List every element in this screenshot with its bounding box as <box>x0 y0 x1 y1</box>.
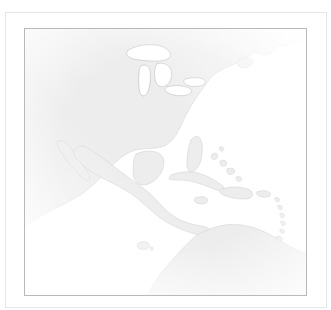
jamaica-island <box>194 197 207 204</box>
map-panel[interactable] <box>24 28 307 296</box>
map-canvas[interactable] <box>25 29 306 295</box>
lake-ontario <box>184 78 205 87</box>
puerto-rico-island <box>257 191 271 197</box>
lake-huron <box>154 63 171 87</box>
page-root <box>0 0 331 310</box>
